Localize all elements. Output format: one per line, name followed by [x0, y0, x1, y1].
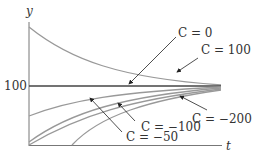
label-c100: C = 100	[201, 43, 251, 57]
x-axis-label: t	[226, 139, 231, 153]
chart: y t 100 C = 0 C = 100 C = −100 C = −50 C…	[0, 0, 253, 155]
arrow-cm200	[180, 96, 207, 110]
label-cm50: C = −50	[126, 130, 178, 144]
label-cm200: C = −200	[192, 112, 252, 126]
label-c0: C = 0	[178, 26, 213, 40]
y-axis-label: y	[25, 4, 33, 18]
tick-label-100: 100	[4, 79, 27, 93]
arrow-c100	[177, 58, 198, 72]
